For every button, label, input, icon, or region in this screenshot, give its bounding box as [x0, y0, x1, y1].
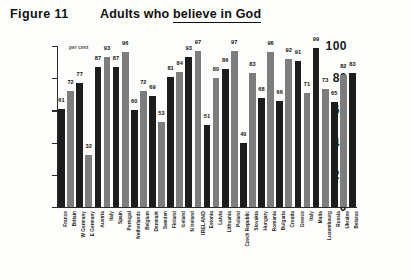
- bar-value-label: 53: [158, 110, 164, 116]
- plot-area: per cent 020406080100 617277328793879660…: [57, 46, 357, 208]
- bar: [113, 67, 120, 207]
- bar: [222, 69, 229, 207]
- bar-slot: 72: [140, 46, 147, 207]
- bar-slot: 99: [313, 46, 320, 207]
- bar-slot: 71: [304, 46, 311, 207]
- bar-value-label: 99: [313, 36, 319, 42]
- x-axis-category-labels: FranceBritainW GermanyE GermanyAustriaIt…: [57, 211, 357, 277]
- bar-slot: 84: [176, 46, 183, 207]
- bar-slot: 61: [58, 46, 65, 207]
- x-axis-category-label: Sweden: [163, 211, 168, 229]
- x-axis-category-label: Britain: [72, 211, 77, 226]
- bar: [122, 52, 129, 207]
- bar-slot: 81: [167, 46, 174, 207]
- bar-slot: 51: [204, 46, 211, 207]
- bar: [285, 59, 292, 207]
- x-axis-category-label: Spain: [118, 211, 123, 224]
- x-axis-category-label: Portugal: [127, 211, 132, 230]
- bar: [331, 102, 338, 207]
- bar-value-label: 32: [86, 143, 92, 149]
- x-axis-category-label: N Ireland: [190, 211, 195, 232]
- bar-slot: 77: [76, 46, 83, 207]
- bar: [276, 101, 283, 207]
- bar-slot: 92: [285, 46, 292, 207]
- bar: [58, 109, 65, 207]
- bar-slot: 69: [149, 46, 156, 207]
- bar-slot: 93: [185, 46, 192, 207]
- bar-slot: 82: [340, 46, 347, 207]
- x-axis-category-label: Luxembourg: [327, 211, 332, 240]
- bar-slot: 96: [267, 46, 274, 207]
- bar-value-label: 51: [204, 113, 210, 119]
- bar-value-label: 66: [277, 89, 283, 95]
- x-axis-category-label: Netherlands: [136, 211, 141, 239]
- x-axis-category-label: Denmark: [154, 211, 159, 231]
- bar-slot: 73: [322, 46, 329, 207]
- x-axis-category-label: Slovakia: [254, 211, 259, 230]
- bar: [76, 83, 83, 207]
- x-axis-category-label: W Germany: [81, 211, 86, 238]
- x-axis-category-label: Italy: [309, 211, 314, 221]
- bar: [249, 73, 256, 207]
- bar-slot: 72: [67, 46, 74, 207]
- bar-value-label: 77: [77, 71, 83, 77]
- chart-title-underlined: believe in God: [173, 7, 261, 23]
- bar: [322, 89, 329, 207]
- bar-slot: 93: [104, 46, 111, 207]
- bar-value-label: 72: [140, 79, 146, 85]
- bar: [131, 110, 138, 207]
- figure-header: Figure 11 Adults who believe in God: [0, 6, 412, 30]
- x-axis-category-label: Belgium: [145, 211, 150, 230]
- bar-value-label: 80: [213, 66, 219, 72]
- bar-value-label: 87: [95, 55, 101, 61]
- x-axis-category-label: Iceland: [181, 211, 186, 228]
- bar-value-label: 82: [340, 63, 346, 69]
- bar-value-label: 97: [231, 39, 237, 45]
- x-axis-category-label: Malta: [318, 211, 323, 223]
- bar: [67, 91, 74, 207]
- bar: [176, 72, 183, 207]
- bar: [195, 51, 202, 207]
- bar-slot: 87: [95, 46, 102, 207]
- bar-value-label: 81: [167, 65, 173, 71]
- chart-title: Adults who believe in God: [100, 7, 261, 21]
- bar-value-label: 68: [258, 86, 264, 92]
- chart-title-prefix: Adults who: [100, 7, 173, 21]
- bar-value-label: 93: [186, 45, 192, 51]
- x-axis-category-label: Croatia: [290, 211, 295, 228]
- bar-slot: 96: [122, 46, 129, 207]
- bar-value-label: 92: [286, 47, 292, 53]
- bar-value-label: 96: [267, 40, 273, 46]
- x-axis-category-label: Greece: [300, 211, 305, 227]
- bar-slot: 83: [349, 46, 356, 207]
- bar-slot: 40: [240, 46, 247, 207]
- x-axis-category-label: Hungary: [263, 211, 268, 230]
- bar-slot: 65: [331, 46, 338, 207]
- bar-value-label: 83: [249, 61, 255, 67]
- bar-value-label: 97: [195, 39, 201, 45]
- x-axis-category-label: Italy: [109, 211, 114, 221]
- x-axis-category-label: France: [63, 211, 68, 227]
- bar: [213, 78, 220, 207]
- bar: [267, 52, 274, 207]
- bar-slot: 80: [213, 46, 220, 207]
- bar-value-label: 91: [295, 49, 301, 55]
- bar-value-label: 83: [349, 61, 355, 67]
- bar: [204, 125, 211, 207]
- bar: [240, 143, 247, 207]
- bar: [295, 61, 302, 208]
- bar: [185, 57, 192, 207]
- x-axis-category-label: E Germany: [90, 211, 95, 236]
- bar-value-label: 69: [149, 84, 155, 90]
- bar-value-label: 71: [304, 81, 310, 87]
- y-axis-tick: [52, 207, 57, 208]
- figure-container: Figure 11 Adults who believe in God per …: [0, 0, 412, 280]
- bar-value-label: 73: [322, 77, 328, 83]
- x-axis-category-label: Finland: [172, 211, 177, 228]
- x-axis-line: [57, 207, 357, 208]
- x-axis-category-label: IRELAND: [200, 211, 206, 235]
- bar: [313, 48, 320, 207]
- x-axis-category-label: Czech Republic: [245, 211, 250, 247]
- bar-value-label: 87: [113, 55, 119, 61]
- bar: [158, 122, 165, 207]
